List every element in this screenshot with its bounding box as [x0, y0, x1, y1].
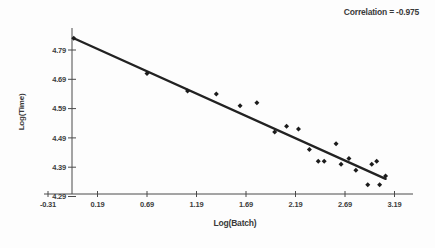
y-tick-label: 4.69: [52, 75, 66, 84]
chart-canvas: Correlation = -0.975 -0.310.190.691.191.…: [0, 0, 435, 248]
trend-line: [74, 38, 386, 179]
data-point: [238, 103, 243, 108]
data-point: [322, 159, 327, 164]
data-point: [365, 182, 370, 187]
data-point: [377, 182, 382, 187]
scatter-plot-svg: -0.310.190.691.191.692.192.693.194.794.6…: [0, 0, 435, 248]
data-point: [296, 127, 301, 132]
data-point: [214, 91, 219, 96]
x-axis-title: Log(Batch): [160, 218, 310, 228]
x-tick-label: 0.19: [91, 200, 105, 209]
y-tick-label: 4.79: [52, 46, 66, 55]
y-tick-label: 4.29: [52, 192, 66, 201]
x-tick-label: 1.19: [190, 200, 204, 209]
y-tick-label: 4.49: [52, 134, 66, 143]
x-tick-label: 2.19: [289, 200, 303, 209]
y-axis-title: Log(Time): [17, 94, 26, 131]
y-tick-label: 4.59: [52, 104, 66, 113]
data-point: [346, 156, 351, 161]
y-tick-label: 4.39: [52, 163, 66, 172]
x-tick-label: 2.69: [338, 200, 352, 209]
x-tick-label: -0.31: [40, 200, 56, 209]
x-tick-label: 1.69: [239, 200, 253, 209]
data-point: [334, 141, 339, 146]
data-point: [353, 168, 358, 173]
data-point: [284, 124, 289, 129]
data-point: [307, 147, 312, 152]
data-point: [369, 162, 374, 167]
x-tick-label: 3.19: [388, 200, 402, 209]
data-point: [374, 159, 379, 164]
data-point: [316, 159, 321, 164]
x-tick-label: 0.69: [140, 200, 154, 209]
data-point: [254, 100, 259, 105]
data-point: [339, 162, 344, 167]
